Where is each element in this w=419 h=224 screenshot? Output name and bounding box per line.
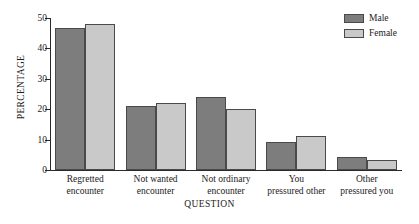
bar-group: [126, 18, 186, 170]
category-label-line: You: [261, 174, 331, 186]
bar-female: [296, 136, 326, 170]
y-tick-label: 50: [38, 11, 48, 25]
y-tick-label: 30: [38, 72, 48, 86]
legend-swatch-male: [344, 14, 364, 23]
category-label-line: Other: [332, 174, 402, 186]
bar-female: [156, 103, 186, 170]
y-tick-label: 20: [38, 102, 48, 116]
bar-group: [55, 18, 115, 170]
category-label-line: pressured you: [332, 186, 402, 198]
bar-group: [196, 18, 256, 170]
category-label: Not ordinaryencounter: [191, 174, 261, 197]
category-label-line: encounter: [50, 186, 120, 198]
x-axis-title: QUESTION: [0, 199, 419, 209]
bar-female: [226, 109, 256, 170]
bar-male: [266, 142, 296, 170]
bar-female: [85, 24, 115, 170]
y-axis-title: PERCENTAGE: [13, 2, 29, 172]
bar-male: [126, 106, 156, 170]
category-label: Youpressured other: [261, 174, 331, 197]
y-tick-label: 0: [42, 163, 47, 177]
category-label: Not wantedencounter: [120, 174, 190, 197]
legend-label: Female: [369, 28, 397, 39]
bar-group: [266, 18, 326, 170]
category-label-line: Regretted: [50, 174, 120, 186]
bar-male: [55, 28, 85, 170]
category-label-line: encounter: [120, 186, 190, 198]
legend: MaleFemale: [344, 12, 397, 42]
category-label-line: pressured other: [261, 186, 331, 198]
legend-item-female: Female: [344, 27, 397, 40]
y-axis-line: [50, 18, 51, 170]
category-label: Regrettedencounter: [50, 174, 120, 197]
category-label: Otherpressured you: [332, 174, 402, 197]
bar-chart: PERCENTAGE 01020304050 Regrettedencounte…: [0, 0, 419, 224]
bar-female: [367, 160, 397, 170]
bar-male: [196, 97, 226, 170]
category-label-line: Not ordinary: [191, 174, 261, 186]
y-tick-label: 40: [38, 41, 48, 55]
legend-swatch-female: [344, 29, 364, 38]
category-label-line: Not wanted: [120, 174, 190, 186]
bar-male: [337, 157, 367, 170]
y-tick-label: 10: [38, 133, 48, 147]
category-label-line: encounter: [191, 186, 261, 198]
legend-item-male: Male: [344, 12, 397, 25]
x-axis-line: [50, 170, 402, 171]
legend-label: Male: [369, 13, 389, 24]
